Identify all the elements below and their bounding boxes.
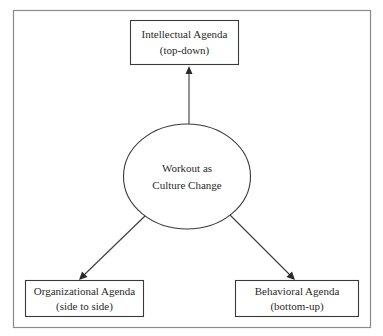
center-ellipse	[124, 124, 251, 229]
node-organizational-title: Organizational Agenda	[34, 285, 136, 297]
edge-to-behavioral	[230, 215, 290, 275]
edge-to-organizational	[84, 215, 146, 275]
node-intellectual-title: Intellectual Agenda	[142, 28, 228, 40]
node-intellectual: Intellectual Agenda (top-down)	[131, 21, 239, 65]
center-subtitle: Culture Change	[152, 179, 221, 191]
node-behavioral-title: Behavioral Agenda	[255, 285, 340, 297]
node-workout: Workout as Culture Change	[124, 124, 251, 229]
node-organizational: Organizational Agenda (side to side)	[26, 281, 144, 317]
node-intellectual-subtitle: (top-down)	[160, 44, 210, 57]
node-behavioral-subtitle: (bottom-up)	[270, 300, 323, 313]
node-organizational-subtitle: (side to side)	[56, 300, 113, 313]
node-behavioral: Behavioral Agenda (bottom-up)	[236, 281, 359, 317]
center-title: Workout as	[162, 162, 212, 174]
arrowhead-intellectual	[186, 66, 193, 74]
diagram-canvas: Intellectual Agenda (top-down) Workout a…	[0, 0, 383, 336]
